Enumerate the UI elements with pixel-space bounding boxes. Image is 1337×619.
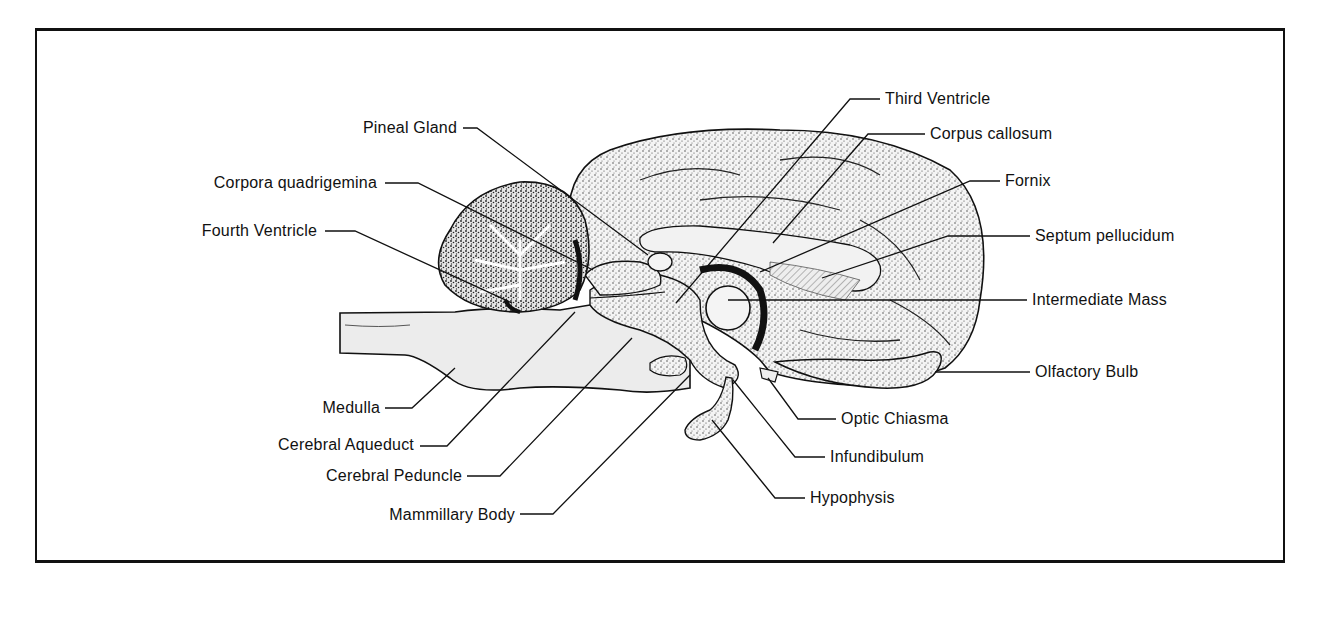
label-cerebral-aqueduct: Cerebral Aqueduct (278, 436, 414, 454)
label-third-ventricle: Third Ventricle (885, 90, 990, 108)
label-hypophysis: Hypophysis (810, 489, 895, 507)
label-intermediate-mass: Intermediate Mass (1032, 291, 1167, 309)
intermediate-mass-shape (706, 286, 750, 330)
label-corpus-callosum: Corpus callosum (930, 125, 1052, 143)
label-pineal-gland: Pineal Gland (363, 119, 457, 137)
label-medulla: Medulla (323, 399, 380, 417)
label-fornix: Fornix (1005, 172, 1051, 190)
brain-diagram (0, 0, 1337, 619)
label-infundibulum: Infundibulum (830, 448, 924, 466)
label-mammillary-body: Mammillary Body (389, 506, 515, 524)
label-corpora-quadrigemina: Corpora quadrigemina (214, 174, 377, 192)
label-septum-pellucidum: Septum pellucidum (1035, 227, 1174, 245)
label-fourth-ventricle: Fourth Ventricle (202, 222, 317, 240)
label-optic-chiasma: Optic Chiasma (841, 410, 949, 428)
pineal-gland-shape (648, 253, 672, 271)
label-cerebral-peduncle: Cerebral Peduncle (326, 467, 462, 485)
label-olfactory-bulb: Olfactory Bulb (1035, 363, 1138, 381)
hypophysis-shape (685, 377, 733, 440)
